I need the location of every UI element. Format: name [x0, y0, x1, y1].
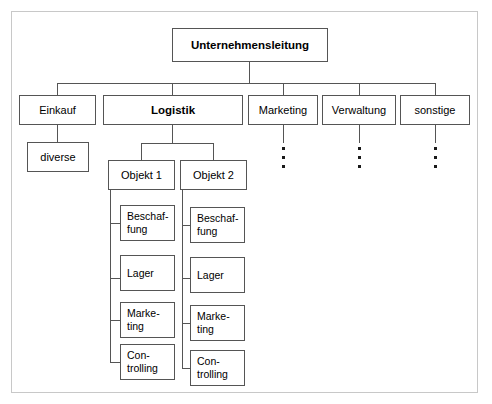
node-label: Unternehmensleitung — [191, 39, 309, 52]
connector-drop-objekt1 — [141, 143, 142, 160]
node-label: Objekt 2 — [193, 169, 234, 181]
node-label: Beschaf- fung — [127, 210, 168, 235]
node-verwaltung[interactable]: Verwaltung — [322, 95, 396, 125]
node-sonstige[interactable]: sonstige — [400, 95, 470, 125]
connector-objekt1-elbow-3 — [110, 320, 120, 321]
node-label: Verwaltung — [332, 104, 386, 116]
node-objekt-2[interactable]: Objekt 2 — [180, 160, 247, 190]
connector-objekt1-elbow-2 — [110, 278, 120, 279]
connector-verwaltung-stem — [359, 125, 360, 143]
connector-objekt2-elbow-4 — [182, 368, 190, 369]
connector-drop-einkauf — [57, 83, 58, 95]
ellipsis-marketing — [282, 147, 285, 168]
connector-einkauf-diverse — [57, 125, 58, 142]
node-label: Einkauf — [39, 104, 76, 116]
connector-drop-verwaltung — [359, 83, 360, 95]
connector-drop-objekt2 — [213, 143, 214, 160]
connector-root-stem — [249, 62, 250, 83]
node-label: diverse — [40, 151, 75, 163]
node-objekt1-controlling[interactable]: Con- trolling — [120, 344, 175, 380]
node-label: Con- trolling — [127, 349, 158, 374]
node-objekt1-marketing[interactable]: Marke- ting — [120, 302, 175, 338]
connector-objekt2-elbow-1 — [182, 225, 190, 226]
ellipsis-sonstige — [434, 147, 437, 168]
connector-objekt2-elbow-3 — [182, 323, 190, 324]
node-label: Objekt 1 — [121, 169, 162, 181]
node-objekt2-controlling[interactable]: Con- trolling — [190, 350, 245, 386]
node-diverse[interactable]: diverse — [27, 142, 89, 172]
connector-objekt1-elbow-1 — [110, 223, 120, 224]
node-marketing[interactable]: Marketing — [248, 95, 318, 125]
node-objekt1-beschaffung[interactable]: Beschaf- fung — [120, 205, 175, 241]
node-logistik[interactable]: Logistik — [103, 95, 243, 125]
node-label: sonstige — [415, 104, 456, 116]
node-label: Beschaf- fung — [197, 212, 238, 237]
connector-drop-marketing — [283, 83, 284, 95]
node-unternehmensleitung[interactable]: Unternehmensleitung — [172, 28, 328, 62]
node-label: Marketing — [259, 104, 307, 116]
node-objekt1-lager[interactable]: Lager — [120, 255, 175, 291]
connector-sonstige-stem — [435, 125, 436, 143]
node-label: Marke- ting — [127, 307, 160, 332]
connector-objekt2-elbow-2 — [182, 278, 190, 279]
node-label: Logistik — [151, 104, 195, 117]
connector-objekt1-spine — [110, 190, 111, 362]
node-label: Marke- ting — [197, 310, 230, 335]
connector-objekt1-elbow-4 — [110, 362, 120, 363]
connector-drop-logistik — [172, 83, 173, 95]
node-objekt-1[interactable]: Objekt 1 — [108, 160, 175, 190]
connector-marketing-stem — [283, 125, 284, 143]
connector-logistik-stem — [172, 125, 173, 143]
node-objekt2-lager[interactable]: Lager — [190, 257, 245, 293]
node-label: Lager — [127, 267, 154, 280]
node-objekt2-beschaffung[interactable]: Beschaf- fung — [190, 207, 245, 243]
connector-objekt-bus — [141, 143, 214, 144]
connector-drop-sonstige — [435, 83, 436, 95]
connector-level1-bus — [57, 83, 436, 84]
node-label: Lager — [197, 269, 224, 282]
ellipsis-verwaltung — [358, 147, 361, 168]
organigramm-canvas: Unternehmensleitung Einkauf Logistik Mar… — [0, 0, 492, 404]
connector-objekt2-spine — [182, 190, 183, 368]
node-objekt2-marketing[interactable]: Marke- ting — [190, 305, 245, 341]
node-label: Con- trolling — [197, 355, 228, 380]
node-einkauf[interactable]: Einkauf — [19, 95, 96, 125]
